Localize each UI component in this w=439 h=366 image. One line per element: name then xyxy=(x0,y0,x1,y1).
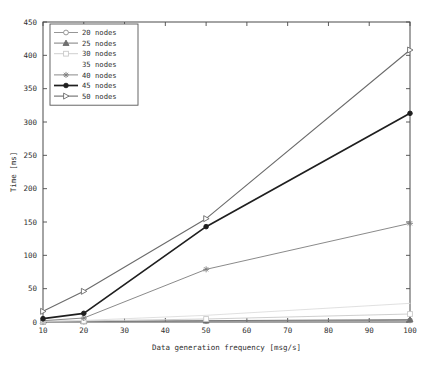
legend-item-35-nodes[interactable]: 35 nodes xyxy=(82,60,117,69)
series-line xyxy=(43,113,410,318)
x-tick-label: 90 xyxy=(365,326,375,335)
x-tick-label: 40 xyxy=(161,326,171,335)
legend-label: 45 nodes xyxy=(82,81,117,90)
x-tick-label: 80 xyxy=(324,326,334,335)
y-tick-label: 300 xyxy=(23,118,37,127)
y-tick-label: 100 xyxy=(23,251,37,260)
x-tick-label: 20 xyxy=(79,326,89,335)
y-axis-title: Time [ms] xyxy=(9,152,18,193)
data-point-marker xyxy=(81,288,86,294)
series-line xyxy=(43,223,410,320)
y-tick-label: 350 xyxy=(23,84,37,93)
data-point-marker xyxy=(64,30,69,35)
data-point-marker xyxy=(63,72,69,78)
data-point-marker xyxy=(64,51,69,56)
data-point-marker xyxy=(408,312,413,317)
x-tick-label: 30 xyxy=(120,326,130,335)
legend-label: 40 nodes xyxy=(82,71,117,80)
x-tick-label: 60 xyxy=(242,326,252,335)
legend-item-50-nodes[interactable]: 50 nodes xyxy=(54,92,117,101)
data-point-marker xyxy=(41,316,46,321)
y-tick-label: 0 xyxy=(32,318,37,327)
chart-legend: 20 nodes25 nodes30 nodes35 nodes40 nodes… xyxy=(50,24,138,105)
chart-figure: 102030405060708090100 050100150200250300… xyxy=(0,0,439,366)
series-40-nodes xyxy=(40,220,413,323)
y-tick-label: 200 xyxy=(23,184,37,193)
x-axis-title: Data generation frequency [msg/s] xyxy=(152,343,301,352)
legend-label: 35 nodes xyxy=(82,60,117,69)
data-point-marker xyxy=(64,83,69,88)
data-point-marker xyxy=(407,220,413,226)
legend-label: 25 nodes xyxy=(82,39,117,48)
legend-label: 50 nodes xyxy=(82,92,117,101)
legend-label: 20 nodes xyxy=(82,28,117,37)
data-point-marker xyxy=(203,266,209,272)
y-tick-label: 50 xyxy=(28,284,38,293)
y-tick-label: 250 xyxy=(23,151,37,160)
x-tick-label: 10 xyxy=(38,326,48,335)
x-tick-label: 70 xyxy=(283,326,293,335)
series-45-nodes xyxy=(41,111,413,321)
x-tick-labels: 102030405060708090100 xyxy=(38,326,417,335)
y-tick-label: 400 xyxy=(23,51,37,60)
y-tick-label: 450 xyxy=(23,18,37,27)
y-tick-label: 150 xyxy=(23,218,37,227)
x-tick-label: 100 xyxy=(403,326,417,335)
data-point-marker xyxy=(204,224,209,229)
line-chart: 102030405060708090100 050100150200250300… xyxy=(0,0,439,366)
y-tick-labels: 050100150200250300350400450 xyxy=(23,18,37,327)
data-point-marker xyxy=(204,317,209,322)
data-point-marker xyxy=(408,111,413,116)
data-point-marker xyxy=(81,311,86,316)
x-tick-label: 50 xyxy=(202,326,212,335)
legend-label: 30 nodes xyxy=(82,49,117,58)
